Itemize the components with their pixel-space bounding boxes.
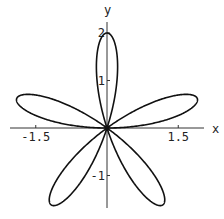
polar-rose-chart: -1.51.521-1 x y bbox=[0, 0, 224, 219]
axis-ticks: -1.51.521-1 bbox=[21, 26, 189, 183]
y-tick-label: 1 bbox=[98, 74, 105, 88]
x-axis-label: x bbox=[212, 122, 219, 136]
y-axis-label: y bbox=[104, 3, 111, 17]
y-tick-label: -1 bbox=[91, 169, 105, 183]
x-tick-label: 1.5 bbox=[167, 130, 189, 144]
x-tick-label: -1.5 bbox=[21, 130, 50, 144]
